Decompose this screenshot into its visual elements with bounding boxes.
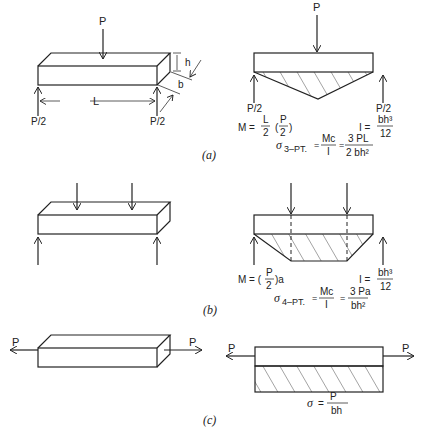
svg-text:2: 2 xyxy=(263,127,269,138)
support-right-label: P/2 xyxy=(150,116,165,127)
moment-equation-a: M = L 2 ( P 2 ) xyxy=(238,114,292,138)
svg-text:=: = xyxy=(340,293,345,303)
svg-text:=: = xyxy=(314,140,319,150)
svg-text:bh³: bh³ xyxy=(378,267,393,278)
svg-text:2: 2 xyxy=(280,127,286,138)
stress-equation-c: σ = P bh xyxy=(307,391,348,416)
support-left-label: P/2 xyxy=(31,116,46,127)
moment-equation-b: M = ( P 2 )a xyxy=(238,267,284,291)
moment-diagram-a xyxy=(254,53,373,99)
load-right-2d-label: P xyxy=(402,342,409,354)
panel-c: P P P P σ = P bh (c) xyxy=(10,335,414,427)
load-label: P xyxy=(99,15,106,27)
beam-3d-c xyxy=(38,335,170,367)
svg-text:): ) xyxy=(289,122,292,133)
svg-text:2 bh²: 2 bh² xyxy=(346,147,369,158)
moment-diagram-b xyxy=(254,215,373,261)
svg-text:12: 12 xyxy=(380,128,392,139)
svg-text:=: = xyxy=(339,140,344,150)
svg-text:L: L xyxy=(263,114,269,125)
svg-text:P: P xyxy=(280,114,287,125)
svg-text:I: I xyxy=(325,299,328,310)
svg-text:I =: I = xyxy=(359,274,371,285)
width-label: b xyxy=(178,79,184,90)
load-right-label: P xyxy=(189,336,196,348)
svg-text:P: P xyxy=(266,267,273,278)
svg-text:)a: )a xyxy=(275,274,284,285)
svg-text:bh²: bh² xyxy=(351,300,366,311)
panel-b: M = ( P 2 )a I = bh³ 12 σ 4–PT. = Mc I =… xyxy=(38,183,393,317)
stress-diagram-c xyxy=(255,347,383,392)
svg-text:Mc: Mc xyxy=(320,286,333,297)
svg-text:2: 2 xyxy=(266,280,272,291)
svg-text:bh³: bh³ xyxy=(378,114,393,125)
svg-text:bh: bh xyxy=(331,405,342,416)
length-label: L xyxy=(93,95,99,107)
svg-text:3 PL: 3 PL xyxy=(348,133,369,144)
svg-text:σ: σ xyxy=(276,138,283,152)
svg-text:I =: I = xyxy=(359,122,371,133)
caption-b: (b) xyxy=(203,303,217,317)
svg-text:M = (: M = ( xyxy=(238,274,262,285)
stress-equation-a: σ 3–PT. = Mc I = 3 PL 2 bh² xyxy=(276,133,373,158)
svg-text:(: ( xyxy=(275,122,279,133)
svg-text:σ: σ xyxy=(274,291,281,305)
svg-text:=: = xyxy=(318,398,324,409)
support-right-2d-label: P/2 xyxy=(376,103,391,114)
mechanical-testing-figure: P P/2 P/2 L h b P P/2 P/2 xyxy=(0,0,423,436)
svg-text:4–PT.: 4–PT. xyxy=(282,297,305,307)
caption-a: (a) xyxy=(202,148,216,162)
stress-equation-b: σ 4–PT. = Mc I = 3 Pa bh² xyxy=(274,286,371,311)
svg-text:M =: M = xyxy=(238,122,255,133)
panel-a: P P/2 P/2 L h b P P/2 P/2 xyxy=(31,1,393,162)
beam-3d-b xyxy=(38,202,170,234)
svg-text:P: P xyxy=(330,391,337,402)
load-left-2d-label: P xyxy=(228,342,235,354)
svg-text:Mc: Mc xyxy=(322,133,335,144)
load-label-2d: P xyxy=(313,1,320,13)
load-left-label: P xyxy=(12,336,19,348)
svg-text:I: I xyxy=(327,146,330,157)
svg-text:12: 12 xyxy=(380,281,392,292)
beam-3d-a xyxy=(38,53,170,85)
svg-text:3–PT.: 3–PT. xyxy=(284,144,307,154)
svg-text:=: = xyxy=(312,293,317,303)
svg-text:σ: σ xyxy=(307,396,314,410)
caption-c: (c) xyxy=(203,413,216,427)
svg-text:3 Pa: 3 Pa xyxy=(350,286,371,297)
support-left-2d-label: P/2 xyxy=(247,103,262,114)
height-label: h xyxy=(185,57,191,68)
